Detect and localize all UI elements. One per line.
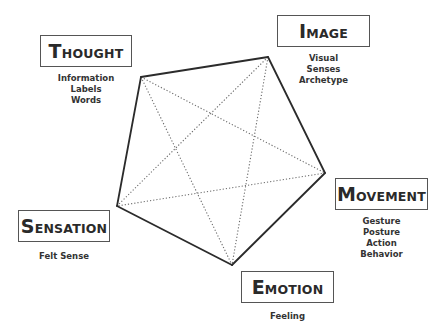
node-movement: MOVEMENT Gesture Posture Action Behavior [335,178,428,260]
image-title: IMAGE [299,20,348,42]
thought-title: THOUGHT [49,40,124,62]
node-sensation: SENSATION Felt Sense [18,210,110,262]
movement-title: MOVEMENT [337,183,426,205]
sensation-title-initial: S [21,215,35,237]
node-thought: THOUGHT Information Labels Words [40,35,132,106]
descriptor: Felt Sense [18,251,110,262]
movement-title-rest: OVEMENT [356,189,426,204]
emotion-title-rest: MOTION [265,282,324,297]
descriptor: Labels [40,84,132,95]
node-emotion: EMOTION Feeling [241,271,334,322]
thought-title-rest: HOUGHT [62,46,124,61]
descriptor: Information [40,73,132,84]
descriptor: Words [40,95,132,106]
thought-title-initial: T [49,40,62,62]
movement-box: MOVEMENT [335,178,428,210]
thought-box: THOUGHT [40,35,132,67]
movement-descriptors: Gesture Posture Action Behavior [335,216,428,260]
descriptor: Gesture [335,216,428,227]
inner-star-edges [117,57,325,265]
thought-descriptors: Information Labels Words [40,73,132,106]
movement-title-initial: M [337,183,356,205]
sensation-box: SENSATION [18,210,110,242]
image-box: IMAGE [277,15,370,47]
emotion-title-initial: E [252,276,265,298]
solid-edge-thought-image [141,57,268,77]
image-title-rest: MAGE [306,26,348,41]
sensation-title: SENSATION [21,215,107,237]
solid-edge-emotion-sensation [117,206,232,265]
descriptor: Posture [335,227,428,238]
descriptor: Visual [277,53,370,64]
sensation-title-rest: ENSATION [35,221,108,236]
emotion-title: EMOTION [252,276,324,298]
descriptor: Archetype [277,75,370,86]
dotted-edge-movement-sensation [117,173,325,206]
descriptor: Feeling [241,311,334,322]
dotted-edge-thought-emotion [141,77,232,265]
emotion-box: EMOTION [241,271,334,303]
sensation-descriptors: Felt Sense [18,251,110,262]
node-image: IMAGE Visual Senses Archetype [277,15,370,86]
descriptor: Action [335,238,428,249]
emotion-descriptors: Feeling [241,311,334,322]
outer-pentagon-edges [117,57,325,265]
descriptor: Behavior [335,249,428,260]
descriptor: Senses [277,64,370,75]
image-descriptors: Visual Senses Archetype [277,53,370,86]
